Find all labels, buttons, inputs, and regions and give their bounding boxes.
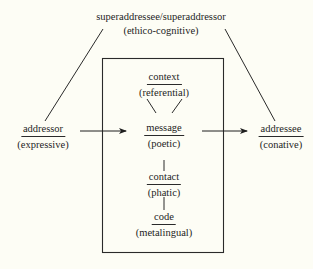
node-contact-function: (phatic) <box>148 185 181 199</box>
node-addressor-function: (expressive) <box>17 137 68 151</box>
node-addressor: addressor (expressive) <box>17 123 68 151</box>
node-addressee: addressee (conative) <box>259 123 304 151</box>
node-addressee-name: addressee <box>259 123 304 137</box>
node-code: code (metalingual) <box>136 211 193 239</box>
node-superaddressee: superaddressee/superaddressor (ethico-co… <box>96 11 225 37</box>
node-contact-name: contact <box>147 171 181 185</box>
node-addressee-function: (conative) <box>260 137 303 151</box>
node-message-function: (poetic) <box>148 136 181 150</box>
node-code-function: (metalingual) <box>136 225 193 239</box>
line-super-to-addressor <box>45 29 103 121</box>
communication-model-diagram: superaddressee/superaddressor (ethico-co… <box>0 0 313 269</box>
line-super-to-addressee <box>225 29 275 121</box>
node-context-function: (referential) <box>139 85 189 99</box>
node-superaddressee-name: superaddressee/superaddressor <box>96 11 225 23</box>
node-message-name: message <box>144 122 184 136</box>
node-code-name: code <box>152 211 176 225</box>
node-addressor-name: addressor <box>21 123 65 137</box>
line-context-left-leg <box>147 99 156 113</box>
line-context-right-leg <box>172 99 182 113</box>
node-context-name: context <box>147 71 182 85</box>
node-contact: contact (phatic) <box>147 171 181 199</box>
node-context: context (referential) <box>139 71 189 99</box>
node-message: message (poetic) <box>144 122 184 150</box>
node-superaddressee-function: (ethico-cognitive) <box>96 23 225 37</box>
